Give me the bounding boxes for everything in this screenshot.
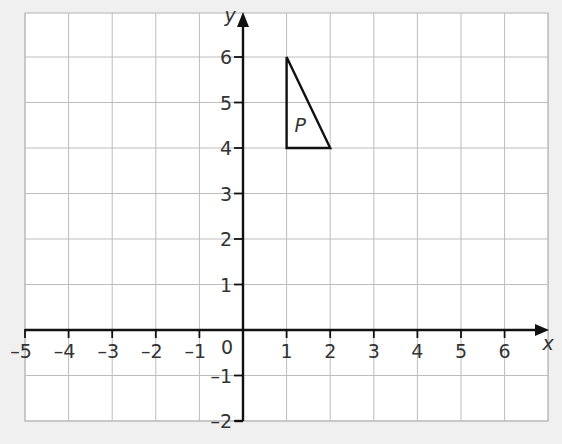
x-tick-label: 1 [281, 340, 293, 362]
y-tick-label: 3 [220, 183, 232, 205]
origin-label: 0 [221, 336, 233, 358]
y-tick-label: 4 [220, 137, 232, 159]
coordinate-grid-figure: –5–4–3–2–1123456–2–11234560xy P [0, 0, 562, 444]
coordinate-plane: –5–4–3–2–1123456–2–11234560xy P [0, 0, 562, 444]
x-tick-label: –2 [141, 340, 163, 362]
y-tick-label: –1 [210, 365, 232, 387]
y-tick-label: 5 [220, 92, 232, 114]
x-tick-label: 6 [499, 340, 511, 362]
x-axis-label: x [541, 332, 554, 354]
y-tick-label: 6 [220, 46, 232, 68]
x-tick-label: 2 [324, 340, 336, 362]
x-tick-label: –1 [185, 340, 207, 362]
y-tick-label: 1 [220, 274, 232, 296]
x-tick-label: 5 [455, 340, 467, 362]
x-tick-label: –3 [97, 340, 119, 362]
y-axis-label: y [223, 4, 236, 26]
x-tick-label: –5 [10, 340, 32, 362]
x-tick-label: 4 [411, 340, 423, 362]
y-tick-label: 2 [220, 228, 232, 250]
x-tick-label: 3 [368, 340, 380, 362]
x-tick-label: –4 [54, 340, 76, 362]
y-tick-label: –2 [210, 410, 232, 432]
shape-label: P [294, 114, 306, 136]
